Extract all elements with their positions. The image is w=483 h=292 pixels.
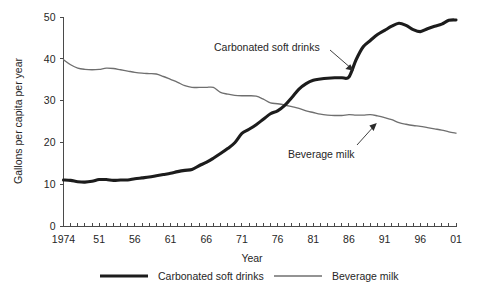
x-tick-label: 76 [272,233,284,245]
y-tick-label: 20 [44,136,56,148]
x-tick-label: 96 [414,233,426,245]
y-tick-label: 10 [44,178,56,190]
x-tick-label: 66 [200,233,212,245]
x-axis-ticks [64,223,457,227]
x-tick-label: 91 [379,233,391,245]
y-tick-label: 30 [44,94,56,106]
annotation-label-carbonated-soft-drinks: Carbonated soft drinks [214,41,320,53]
x-axis-title: Year [241,252,263,264]
chart-legend: Carbonated soft drinks Beverage milk [100,270,399,282]
x-tick-label: 81 [307,233,319,245]
x-tick-label: 51 [93,233,105,245]
annotation-carbonated-soft-drinks: Carbonated soft drinks [214,41,354,71]
legend-label-beverage-milk: Beverage milk [332,270,399,282]
x-tick-label: 86 [343,233,355,245]
x-axis-tick-labels: 19745156616671768186919601 [52,233,462,245]
chart-figure: 01020304050 19745156616671768186919601 Y… [0,0,483,292]
y-tick-label: 0 [50,220,56,232]
y-axis-title: Gallons per capita per year [12,57,24,184]
annotation-beverage-milk: Beverage milk [288,123,377,160]
x-tick-label: 71 [236,233,248,245]
x-tick-label: 01 [450,233,462,245]
y-tick-label: 50 [44,11,56,23]
x-tick-label: 1974 [52,233,76,245]
x-tick-label: 61 [165,233,177,245]
annotation-label-beverage-milk: Beverage milk [288,148,355,160]
y-tick-label: 40 [44,53,56,65]
x-tick-label: 56 [129,233,141,245]
legend-label-carbonated-soft-drinks: Carbonated soft drinks [158,270,264,282]
y-axis-ticks: 01020304050 [44,11,64,233]
line-chart-canvas: 01020304050 19745156616671768186919601 Y… [0,0,483,292]
